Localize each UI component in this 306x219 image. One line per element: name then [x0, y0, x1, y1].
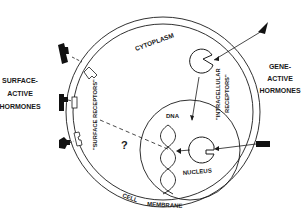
gene-hormone-2-block — [256, 141, 270, 147]
label-line: GENE- — [269, 63, 292, 70]
surface-receptor-3 — [74, 132, 82, 146]
surface-receptor-2 — [72, 97, 77, 108]
label-line: HORMONES — [0, 103, 41, 110]
hormone-action-diagram: ? CYTOPLASM "SURFACE RECEPTORS" "INTRACE… — [0, 0, 306, 219]
question-mark: ? — [121, 139, 128, 151]
surface-hormone-1 — [58, 43, 69, 64]
label-line: SURFACE- — [2, 77, 38, 84]
dna-helix — [161, 125, 176, 194]
gene-active-hormones-label: GENE- ACTIVE HORMONES — [259, 63, 301, 94]
cytoplasm-receptor — [190, 49, 213, 73]
nuclear-receptor — [189, 137, 214, 163]
nucleus-label: NUCLEUS — [183, 167, 212, 176]
intracellular-receptors-label-2: RECEPTORS" — [224, 74, 230, 113]
membrane-label: MEMBRANE — [147, 201, 183, 209]
surface-hormone-3 — [59, 137, 70, 149]
surface-active-hormones-label: SURFACE- ACTIVE HORMONES — [0, 77, 41, 110]
dna-label: DNA — [166, 113, 180, 119]
surface-receptors-label: "SURFACE RECEPTORS" — [92, 79, 98, 150]
label-line: ACTIVE — [7, 90, 33, 97]
gene-hormone-2 — [214, 141, 270, 151]
label-line: ACTIVE — [267, 75, 293, 82]
unknown-pathway-arrow — [100, 120, 170, 150]
surface-receptor-1 — [84, 67, 97, 79]
intracellular-receptors-label-1: "INTRACELLULAR — [215, 67, 221, 120]
receptor-to-nucleus-arrow — [192, 77, 199, 120]
cytoplasm-label: CYTOPLASM — [134, 31, 175, 51]
label-line: HORMONES — [259, 87, 301, 94]
